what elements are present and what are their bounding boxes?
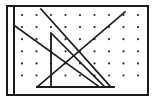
geoboard-figure [0,0,157,104]
grid-dot [35,14,37,16]
grid-dot [21,38,23,40]
grid-dot [93,62,95,64]
grid-dot [50,14,52,16]
grid-dot [21,74,23,76]
grid-dot [137,38,139,40]
grid-dot [122,74,124,76]
grid-dot [21,14,23,16]
grid-dot [122,50,124,52]
grid-dot [108,50,110,52]
grid-dot [137,62,139,64]
grid-dot [21,62,23,64]
grid-dot [79,38,81,40]
grid-dot [122,62,124,64]
grid-dot [35,62,37,64]
grid-dot [108,38,110,40]
grid-dot [108,74,110,76]
grid-dot [137,50,139,52]
grid-dot [137,14,139,16]
grid-dot [79,14,81,16]
grid-dot [108,14,110,16]
grid-dot [79,74,81,76]
grid-dot [122,26,124,28]
grid-dot [93,14,95,16]
grid-dot [93,50,95,52]
grid-dot [35,50,37,52]
grid-dot [79,26,81,28]
grid-dot [50,26,52,28]
grid-dot [35,38,37,40]
grid-dot [21,50,23,52]
grid-dot [21,26,23,28]
grid-dot [137,74,139,76]
grid-dot [35,74,37,76]
grid-dot [64,26,66,28]
grid-dot [93,26,95,28]
figure-container [0,0,157,104]
grid-dot [64,74,66,76]
grid-dot [137,26,139,28]
grid-dot [64,14,66,16]
grid-dot [64,38,66,40]
grid-dot [108,62,110,64]
grid-dot [64,50,66,52]
grid-dot [35,26,37,28]
grid-dot [122,38,124,40]
